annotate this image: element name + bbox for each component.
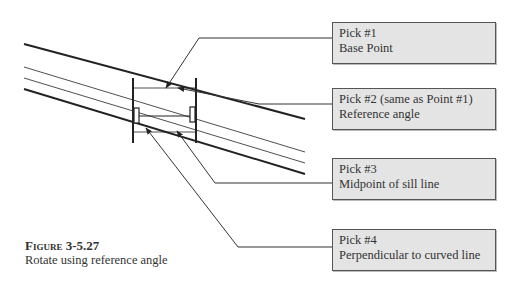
- callout-pick-3: Pick #3 Midpoint of sill line: [332, 158, 496, 200]
- callout-pick-4: Pick #4 Perpendicular to curved line: [332, 229, 496, 271]
- callout-title: Pick #1: [339, 26, 489, 41]
- callout-pick-2: Pick #2 (same as Point #1) Reference ang…: [332, 88, 496, 130]
- figure-number: Figure 3-5.27: [25, 238, 168, 253]
- callout-title: Pick #4: [339, 233, 489, 248]
- callout-desc: Midpoint of sill line: [339, 177, 489, 192]
- figure-description: Rotate using reference angle: [25, 253, 168, 268]
- callout-desc: Reference angle: [339, 107, 489, 122]
- callout-title: Pick #2 (same as Point #1): [339, 92, 489, 107]
- window-opening: [133, 78, 196, 143]
- callout-desc: Perpendicular to curved line: [339, 248, 489, 263]
- wall-lines: [24, 44, 305, 174]
- callout-pick-1: Pick #1 Base Point: [332, 22, 496, 64]
- figure-caption: Figure 3-5.27 Rotate using reference ang…: [25, 238, 168, 268]
- callout-title: Pick #3: [339, 162, 489, 177]
- leader-lines: [146, 38, 332, 247]
- callout-desc: Base Point: [339, 41, 489, 56]
